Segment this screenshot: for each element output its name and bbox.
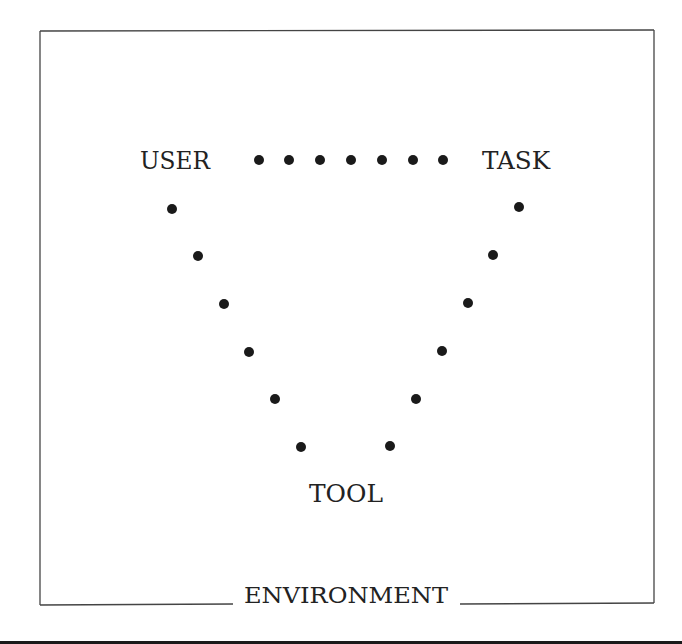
dot-icon	[244, 347, 254, 357]
dot-icon	[346, 155, 356, 165]
triangle-diagram: ENVIRONMENT USER TASK TOOL	[0, 0, 682, 644]
dot-icon	[438, 155, 448, 165]
dot-icon	[167, 204, 177, 214]
dot-icon	[377, 155, 387, 165]
dot-icon	[193, 251, 203, 261]
dot-icon	[514, 202, 524, 212]
node-tool-label: TOOL	[309, 480, 383, 508]
dot-icon	[408, 155, 418, 165]
frame-bottom-right	[460, 603, 654, 604]
dotted-edges	[167, 155, 524, 452]
dot-icon	[437, 346, 447, 356]
dot-icon	[315, 155, 325, 165]
environment-label: ENVIRONMENT	[244, 582, 449, 608]
dot-icon	[463, 298, 473, 308]
edge-user-tool	[167, 204, 306, 452]
frame-top	[40, 30, 654, 31]
dot-icon	[270, 394, 280, 404]
edge-user-task	[254, 155, 448, 165]
dot-icon	[385, 441, 395, 451]
node-task-label: TASK	[482, 147, 551, 175]
dot-icon	[219, 299, 229, 309]
frame-bottom-left	[40, 604, 233, 605]
dot-icon	[488, 250, 498, 260]
dot-icon	[411, 394, 421, 404]
dot-icon	[296, 442, 306, 452]
environment-frame	[40, 30, 654, 605]
edge-task-tool	[385, 202, 524, 451]
dot-icon	[284, 155, 294, 165]
node-user-label: USER	[140, 147, 211, 175]
dot-icon	[254, 155, 264, 165]
